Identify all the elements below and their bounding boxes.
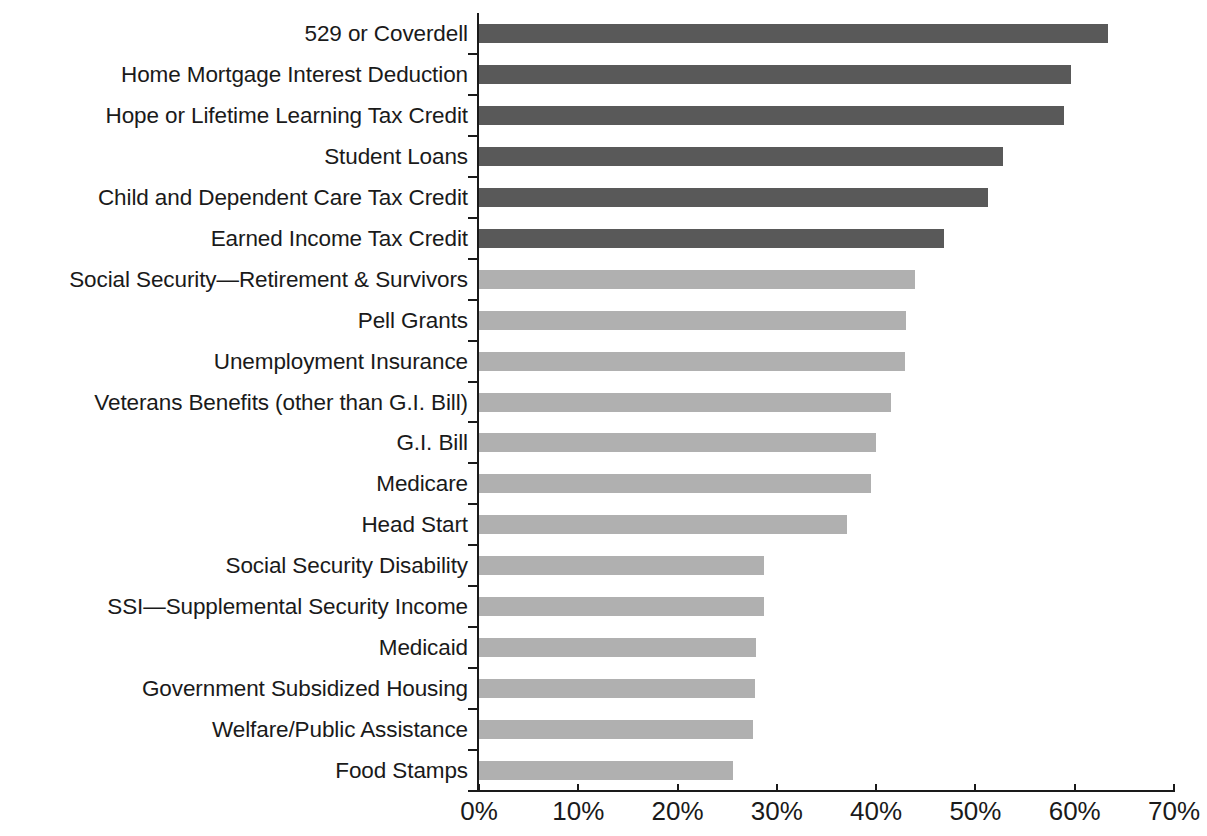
bar-category-label: Social Security—Retirement & Survivors	[69, 259, 468, 300]
bar-category-label: Medicare	[376, 463, 468, 504]
bar-category-label: Food Stamps	[335, 750, 468, 791]
x-axis-tick-label: 0%	[434, 796, 524, 827]
y-axis-tick	[468, 790, 478, 792]
bar	[479, 761, 733, 780]
x-axis-tick	[577, 784, 579, 792]
bar	[479, 720, 753, 739]
bar-category-label: Earned Income Tax Credit	[211, 218, 468, 259]
x-axis-tick-label: 10%	[533, 796, 623, 827]
x-axis-tick	[776, 784, 778, 792]
x-axis-tick-label: 40%	[831, 796, 921, 827]
bar-row: SSI—Supplemental Security Income	[0, 586, 1207, 627]
bar-rows: 529 or CoverdellHome Mortgage Interest D…	[0, 0, 1207, 836]
bar	[479, 65, 1071, 84]
bar-category-label: SSI—Supplemental Security Income	[107, 586, 468, 627]
bar-category-label: Medicaid	[379, 627, 468, 668]
bar-row: Government Subsidized Housing	[0, 668, 1207, 709]
bar	[479, 597, 764, 616]
bar-row: Earned Income Tax Credit	[0, 218, 1207, 259]
x-axis-tick	[1173, 784, 1175, 792]
bar-category-label: 529 or Coverdell	[305, 13, 469, 54]
bar-row: 529 or Coverdell	[0, 13, 1207, 54]
x-axis-tick	[677, 784, 679, 792]
bar	[479, 515, 847, 534]
x-axis-tick-label: 50%	[930, 796, 1020, 827]
bar-row: Food Stamps	[0, 750, 1207, 791]
bar-row: Medicare	[0, 463, 1207, 504]
bar	[479, 352, 905, 371]
bar-row: Veterans Benefits (other than G.I. Bill)	[0, 382, 1207, 423]
bar-row: Student Loans	[0, 136, 1207, 177]
bar-chart: 529 or CoverdellHome Mortgage Interest D…	[0, 0, 1207, 836]
x-axis-tick	[974, 784, 976, 792]
bar-category-label: Welfare/Public Assistance	[212, 709, 468, 750]
bar-row: Child and Dependent Care Tax Credit	[0, 177, 1207, 218]
bar-category-label: Veterans Benefits (other than G.I. Bill)	[94, 382, 468, 423]
bar-category-label: Pell Grants	[358, 300, 468, 341]
bar-category-label: Student Loans	[324, 136, 468, 177]
bar	[479, 24, 1108, 43]
bar-category-label: Home Mortgage Interest Deduction	[121, 54, 468, 95]
x-axis-tick-label: 30%	[732, 796, 822, 827]
bar	[479, 556, 764, 575]
bar-row: Head Start	[0, 504, 1207, 545]
x-axis-tick-label: 70%	[1129, 796, 1207, 827]
bar-row: Social Security Disability	[0, 545, 1207, 586]
bar-row: Welfare/Public Assistance	[0, 709, 1207, 750]
x-axis-tick	[1074, 784, 1076, 792]
bar	[479, 393, 891, 412]
x-axis-tick	[478, 784, 480, 792]
bar	[479, 474, 871, 493]
bar	[479, 270, 915, 289]
bar	[479, 106, 1064, 125]
bar-row: Unemployment Insurance	[0, 341, 1207, 382]
bar-category-label: Child and Dependent Care Tax Credit	[98, 177, 468, 218]
bar-row: Social Security—Retirement & Survivors	[0, 259, 1207, 300]
bar-category-label: Head Start	[361, 504, 468, 545]
bar-category-label: G.I. Bill	[396, 422, 468, 463]
bar	[479, 311, 906, 330]
bar-row: Home Mortgage Interest Deduction	[0, 54, 1207, 95]
bar	[479, 188, 988, 207]
bar-row: G.I. Bill	[0, 422, 1207, 463]
bar-category-label: Government Subsidized Housing	[142, 668, 468, 709]
bar-category-label: Social Security Disability	[226, 545, 468, 586]
bar	[479, 679, 755, 698]
bar	[479, 433, 876, 452]
x-axis-tick-label: 60%	[1030, 796, 1120, 827]
bar	[479, 147, 1003, 166]
bar-row: Medicaid	[0, 627, 1207, 668]
x-axis-tick	[875, 784, 877, 792]
bar	[479, 638, 756, 657]
bar-row: Pell Grants	[0, 300, 1207, 341]
bar-row: Hope or Lifetime Learning Tax Credit	[0, 95, 1207, 136]
bar	[479, 229, 944, 248]
bar-category-label: Hope or Lifetime Learning Tax Credit	[106, 95, 468, 136]
x-axis-tick-label: 20%	[633, 796, 723, 827]
bar-category-label: Unemployment Insurance	[214, 341, 468, 382]
